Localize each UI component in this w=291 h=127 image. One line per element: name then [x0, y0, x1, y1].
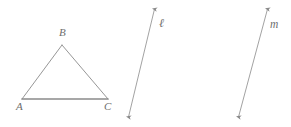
vertex-label-a: A: [16, 101, 23, 112]
line-label-ell: ℓ: [159, 17, 164, 29]
vertex-label-b: B: [59, 27, 66, 38]
geometry-figure: A B C ℓ m: [0, 0, 291, 127]
line-ell-segment: [129, 9, 155, 117]
triangle-ABC: [22, 45, 108, 99]
vertex-label-c: C: [104, 101, 111, 112]
line-m-segment: [239, 9, 268, 117]
triangle-side-bc: [62, 45, 108, 99]
line-label-m: m: [270, 19, 278, 31]
figure-canvas: [0, 0, 291, 127]
line-m: [239, 9, 268, 117]
triangle-side-ab: [22, 45, 62, 99]
line-ell: [129, 9, 155, 117]
